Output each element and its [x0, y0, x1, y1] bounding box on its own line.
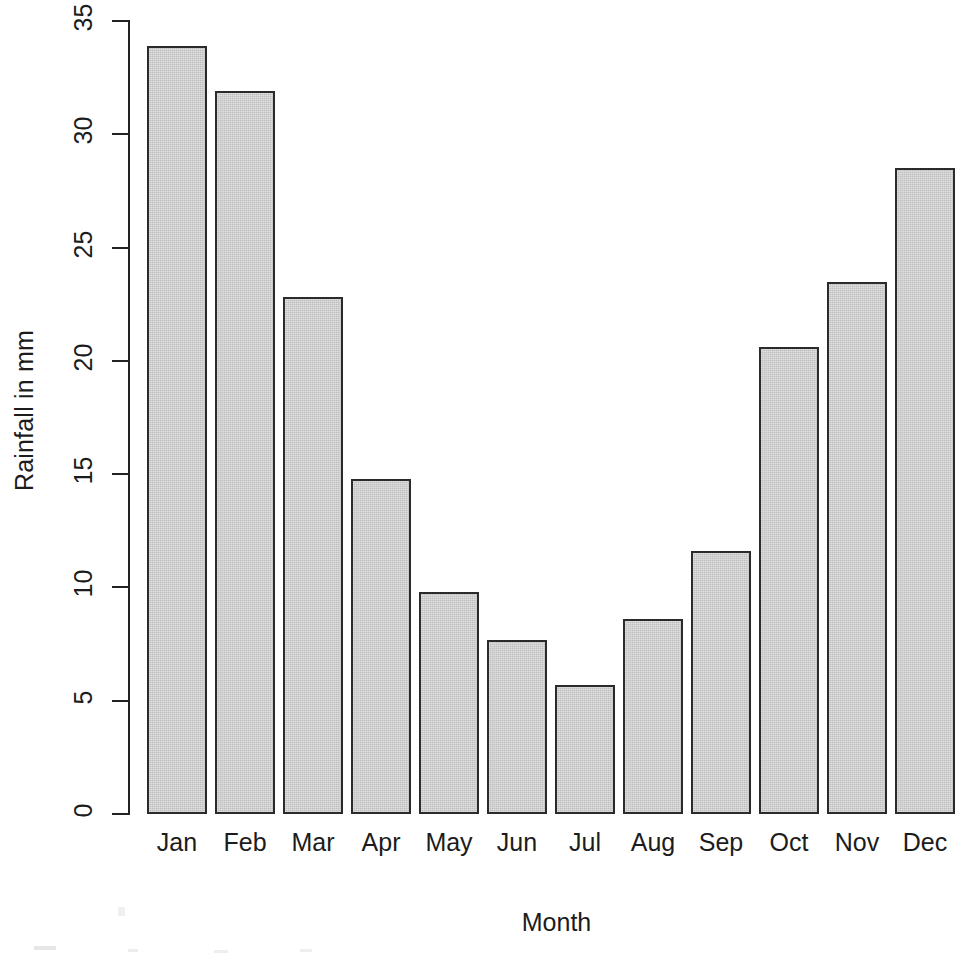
bar-slot [827, 21, 887, 814]
y-axis-title: Rainfall in mm [0, 0, 50, 820]
y-axis-tick-label-text: 15 [72, 457, 97, 485]
x-axis-title-label: Month [522, 908, 591, 937]
bar-slot [623, 21, 683, 814]
y-axis-tick-label-text: 5 [72, 690, 97, 704]
bar-slot [283, 21, 343, 814]
bar[interactable] [147, 46, 207, 814]
y-axis-tick-label-text: 10 [72, 570, 97, 598]
bar-slot [759, 21, 819, 814]
bar[interactable] [895, 168, 955, 814]
bar-slot [895, 21, 955, 814]
y-axis-tick-label: 0 [62, 798, 106, 823]
x-axis-tick-label: Mar [283, 830, 343, 855]
x-axis-tick-label: Feb [215, 830, 275, 855]
x-axis-tick-label: Nov [827, 830, 887, 855]
x-axis-tick-label: May [419, 830, 479, 855]
bar-slot [215, 21, 275, 814]
y-axis-tick [112, 20, 130, 22]
y-axis-tick-label-text: 25 [72, 230, 97, 258]
y-axis-tick-label: 5 [62, 685, 106, 710]
bar-slot [555, 21, 615, 814]
bar[interactable] [623, 619, 683, 814]
y-axis-title-label: Rainfall in mm [11, 329, 40, 490]
x-axis-tick-label: Apr [351, 830, 411, 855]
bar-chart: Rainfall in mm 05101520253035 JanFebMarA… [0, 0, 967, 953]
x-axis-tick-label: Sep [691, 830, 751, 855]
y-axis-tick [112, 700, 130, 702]
scan-artifact [34, 946, 56, 950]
bar[interactable] [691, 551, 751, 814]
bar[interactable] [487, 640, 547, 814]
scan-artifact [300, 949, 312, 952]
x-axis-tick-label: Jul [555, 830, 615, 855]
y-axis-tick [112, 360, 130, 362]
y-axis-tick-label-text: 30 [72, 117, 97, 145]
y-axis-tick-label: 15 [62, 458, 106, 483]
y-axis-tick [112, 133, 130, 135]
bar-slot [351, 21, 411, 814]
y-axis-tick-label-text: 35 [72, 4, 97, 32]
y-axis-tick-label-text: 20 [72, 343, 97, 371]
bar[interactable] [759, 347, 819, 814]
y-axis-tick [112, 813, 130, 815]
x-axis-tick-label: Aug [623, 830, 683, 855]
y-axis-tick [112, 247, 130, 249]
x-axis-tick-label: Oct [759, 830, 819, 855]
bar-slot [419, 21, 479, 814]
x-axis-title: Month [0, 908, 967, 937]
bar-slot [691, 21, 751, 814]
y-axis-line [128, 21, 130, 814]
x-axis-tick-label: Jan [147, 830, 207, 855]
bar-slot [147, 21, 207, 814]
x-axis-tick-label: Dec [895, 830, 955, 855]
bar[interactable] [283, 297, 343, 814]
bar[interactable] [419, 592, 479, 814]
plot-area [147, 21, 963, 814]
bar-slot [487, 21, 547, 814]
y-axis-tick-label: 30 [62, 118, 106, 143]
y-axis-tick-label: 25 [62, 232, 106, 257]
bar[interactable] [827, 282, 887, 814]
bar[interactable] [215, 91, 275, 814]
x-axis-tick-label: Jun [487, 830, 547, 855]
y-axis-tick-label: 35 [62, 5, 106, 30]
y-axis-tick [112, 473, 130, 475]
y-axis-tick-label: 20 [62, 345, 106, 370]
scan-artifact [128, 949, 138, 952]
bar[interactable] [555, 685, 615, 814]
y-axis-tick [112, 586, 130, 588]
y-axis-tick-label-text: 0 [72, 804, 97, 818]
y-axis-tick-label: 10 [62, 571, 106, 596]
bar[interactable] [351, 479, 411, 814]
